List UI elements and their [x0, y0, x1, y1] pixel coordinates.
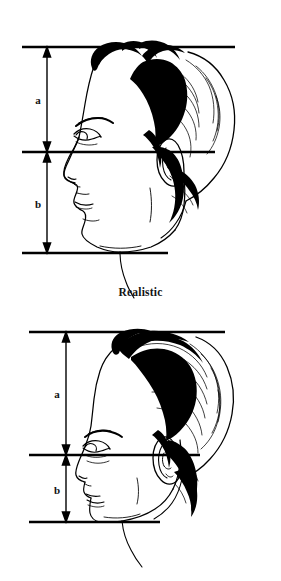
figure-realistic: a b Realistic: [0, 0, 281, 300]
illustration-page: a b Realistic: [0, 0, 281, 581]
idealistic-head-drawing: a b: [0, 300, 281, 581]
realistic-head-drawing: a b: [0, 0, 281, 300]
dimension-label-a: a: [35, 94, 41, 106]
figure-idealistic: a b Idealistic: [0, 300, 281, 581]
dimension-label-b: b: [54, 484, 60, 496]
dimension-label-a: a: [54, 388, 60, 400]
dimension-label-b: b: [35, 198, 41, 210]
figure-caption-realistic: Realistic: [0, 286, 281, 298]
